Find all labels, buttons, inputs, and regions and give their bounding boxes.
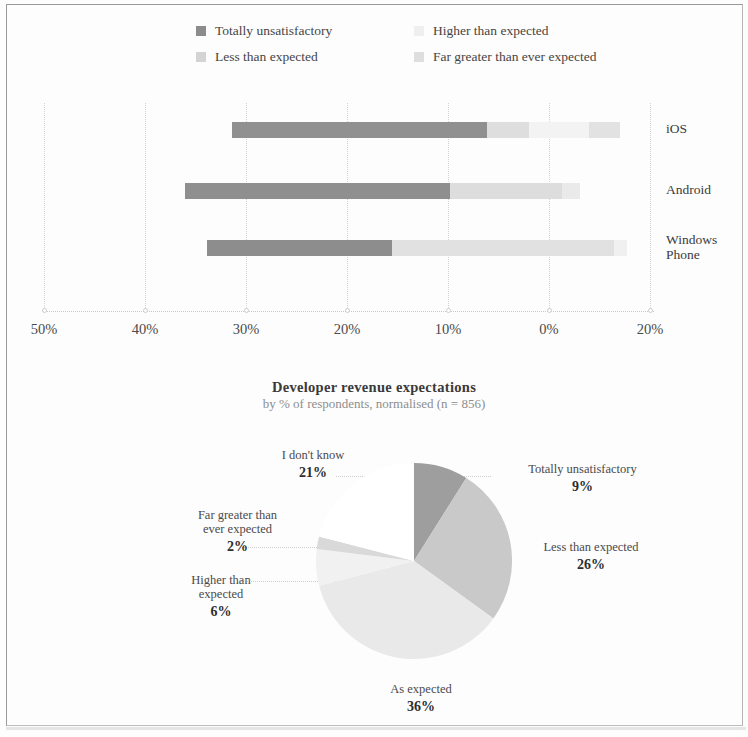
pie-label-less-than-expected: Less than expected 26% — [516, 540, 666, 572]
x-axis-label-text: 40% — [132, 321, 159, 337]
pie-label-text: As expected — [390, 682, 451, 696]
x-axis-label-text: 0% — [539, 321, 558, 337]
bar-category-line: Phone — [666, 247, 717, 262]
pie-label-value: 2% — [175, 540, 300, 554]
bar-segment-less-than-expected — [487, 122, 529, 138]
pie-chart-title: Developer revenue expectations — [0, 379, 748, 396]
legend-label: Totally unsatisfactory — [215, 23, 332, 39]
legend-swatch-icon — [414, 52, 424, 62]
bar-segment-totally-unsatisfactory — [207, 240, 392, 256]
legend-item-less-than-expected: Less than expected — [196, 49, 414, 65]
pie-label-value: 21% — [258, 466, 368, 480]
x-axis-label-40: 40% — [110, 321, 180, 338]
bar-segment-less-than-expected — [450, 183, 562, 199]
bar-segment-far-greater-than-ever-expected — [589, 122, 620, 138]
bar-chart-legend: Totally unsatisfactory Higher than expec… — [196, 18, 626, 70]
pie-label-value: 9% — [500, 480, 665, 494]
pie-label-text: Far greater than — [198, 508, 277, 522]
axis-tick — [143, 308, 148, 313]
x-axis-label-20: 20% — [312, 321, 382, 338]
x-axis-label-50: 50% — [9, 321, 79, 338]
bar-category-label-windows-phone: Windows Phone — [666, 232, 717, 262]
pie-label-value: 36% — [366, 700, 476, 714]
pie-label-text-2: ever expected — [203, 522, 272, 536]
pie-label-totally-unsatisfactory: Totally unsatisfactory 9% — [500, 462, 665, 494]
legend-swatch-icon — [414, 26, 424, 36]
bar-segment-higher-than-expected — [562, 183, 580, 199]
bar-segment-totally-unsatisfactory — [185, 183, 450, 199]
pie-label-as-expected: As expected 36% — [366, 682, 476, 714]
legend-label: Far greater than ever expected — [433, 49, 596, 65]
axis-tick — [345, 308, 350, 313]
legend-swatch-icon — [196, 52, 206, 62]
pie-chart — [306, 453, 522, 669]
bar-category-label-ios: iOS — [666, 121, 687, 136]
pie-label-text-2: expected — [199, 587, 243, 601]
legend-label: Less than expected — [215, 49, 318, 65]
pie-chart-subtitle: by % of respondents, normalised (n = 856… — [0, 396, 748, 412]
page-root: Totally unsatisfactory Higher than expec… — [0, 0, 748, 737]
bar-segment-higher-than-expected — [529, 122, 589, 138]
legend-item-higher-than-expected: Higher than expected — [414, 23, 626, 39]
x-axis-label-text: 30% — [233, 321, 260, 337]
axis-tick — [446, 308, 451, 313]
pie-label-value: 26% — [516, 558, 666, 572]
x-axis-label-text: 20% — [334, 321, 361, 337]
bar-category-line: iOS — [666, 121, 687, 136]
x-axis-label-0: 0% — [514, 321, 584, 338]
pie-label-far-greater-than-ever-expected: Far greater than ever expected 2% — [175, 508, 300, 554]
axis-tick — [648, 308, 653, 313]
bar-row-windows-phone — [0, 240, 748, 256]
bar-row-android — [0, 183, 748, 199]
x-axis-label-text: 10% — [435, 321, 462, 337]
bar-category-label-android: Android — [666, 182, 711, 197]
bar-row-ios — [0, 122, 748, 138]
x-axis-label-text: 50% — [31, 321, 58, 337]
platform-revenue-bar-chart: iOS Android Windows Phone 50% 40% 30% 20… — [0, 95, 748, 340]
pie-label-higher-than-expected: Higher than expected 6% — [166, 573, 276, 619]
legend-item-totally-unsatisfactory: Totally unsatisfactory — [196, 23, 414, 39]
legend-label: Higher than expected — [433, 23, 548, 39]
legend-item-far-greater-than-ever-expected: Far greater than ever expected — [414, 49, 626, 65]
pie-label-text: I don't know — [282, 448, 345, 462]
x-axis-label-10: 10% — [413, 321, 483, 338]
bar-category-line: Android — [666, 182, 711, 197]
pie-label-text: Less than expected — [543, 540, 638, 554]
x-axis-label-text: 20% — [637, 321, 664, 337]
bar-category-line: Windows — [666, 232, 717, 247]
pie-label-i-dont-know: I don't know 21% — [258, 448, 368, 480]
bar-segment-higher-than-expected — [614, 240, 627, 256]
pie-label-text: Higher than — [191, 573, 250, 587]
page-border-shadow — [6, 727, 746, 730]
pie-label-text: Totally unsatisfactory — [528, 462, 636, 476]
axis-tick — [244, 308, 249, 313]
pie-label-value: 6% — [166, 605, 276, 619]
legend-swatch-icon — [196, 26, 206, 36]
axis-tick — [42, 308, 47, 313]
x-axis-label-20-right: 20% — [615, 321, 685, 338]
bar-segment-less-than-expected — [392, 240, 614, 256]
bar-segment-totally-unsatisfactory — [232, 122, 487, 138]
x-axis-label-30: 30% — [211, 321, 281, 338]
pie-chart-svg — [306, 453, 522, 669]
axis-tick — [547, 308, 552, 313]
